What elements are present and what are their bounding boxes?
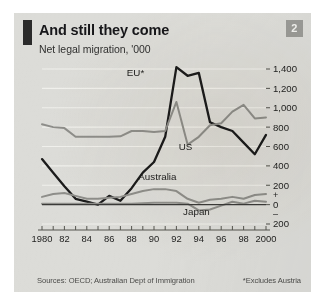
plot-area: 20002004006008001,0001,2001,400+– 198082…: [14, 61, 311, 266]
svg-text:+: +: [273, 190, 278, 200]
svg-text:1,400: 1,400: [273, 63, 297, 74]
series-annotations: EU*USAustraliaJapan: [127, 67, 210, 218]
x-axis-labels: 19808284868890929496982000: [32, 233, 277, 244]
svg-text:US: US: [179, 141, 193, 152]
title-accent-bar: [23, 20, 32, 45]
svg-text:94: 94: [194, 233, 204, 244]
svg-text:88: 88: [126, 233, 136, 244]
line-chart-svg: 20002004006008001,0001,2001,400+– 198082…: [14, 61, 311, 266]
svg-text:1,000: 1,000: [273, 102, 297, 113]
svg-text:1980: 1980: [32, 233, 53, 244]
svg-text:86: 86: [104, 233, 114, 244]
svg-text:96: 96: [216, 233, 226, 244]
y-axis-labels: 20002004006008001,0001,2001,400+–: [266, 63, 297, 229]
x-axis-ticks: [38, 226, 270, 230]
svg-text:98: 98: [238, 233, 248, 244]
svg-text:200: 200: [273, 218, 289, 229]
chart-number-badge: 2: [286, 20, 303, 37]
svg-text:400: 400: [273, 160, 289, 171]
svg-text:600: 600: [273, 141, 289, 152]
svg-text:84: 84: [82, 233, 92, 244]
svg-text:92: 92: [171, 233, 181, 244]
svg-text:EU*: EU*: [127, 67, 145, 78]
svg-text:1,200: 1,200: [273, 83, 297, 94]
svg-text:Australia: Australia: [138, 171, 177, 182]
chart-subtitle: Net legal migration, '000: [39, 43, 151, 55]
svg-text:82: 82: [59, 233, 69, 244]
svg-text:90: 90: [149, 233, 159, 244]
svg-text:800: 800: [273, 122, 289, 133]
chart-figure: 2 And still they come Net legal migratio…: [14, 13, 311, 292]
chart-source: Sources: OECD; Australian Dept of Immigr…: [37, 276, 195, 285]
svg-text:2000: 2000: [256, 233, 277, 244]
chart-title: And still they come: [39, 22, 169, 38]
svg-text:Japan: Japan: [183, 206, 210, 217]
svg-text:–: –: [273, 209, 278, 219]
chart-footnote: *Excludes Austria: [243, 276, 301, 285]
